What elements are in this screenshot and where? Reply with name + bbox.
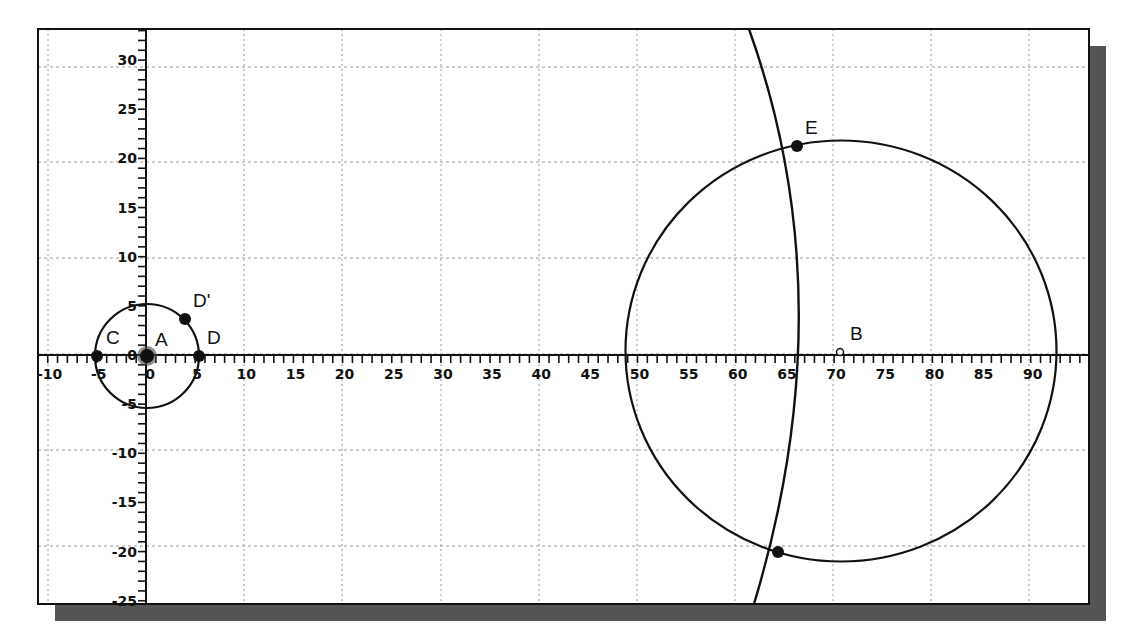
y-tick-label: 0: [127, 347, 137, 363]
x-tick-label: 60: [728, 366, 748, 382]
y-tick-label: -15: [112, 494, 137, 510]
x-tick-label: 25: [384, 366, 403, 382]
point-label: C: [106, 327, 120, 348]
x-tick-label: 65: [777, 366, 796, 382]
point-label: D: [207, 327, 221, 348]
x-tick-label: 80: [925, 366, 945, 382]
point-F[interactable]: [772, 546, 784, 558]
y-tick-label: 20: [118, 150, 138, 166]
x-tick-label: 15: [286, 366, 305, 382]
x-tick-label: 90: [1023, 366, 1043, 382]
y-tick-label: 10: [118, 249, 138, 265]
point-label: D': [193, 290, 210, 311]
point-label: B: [850, 323, 863, 344]
x-tick-label: 40: [531, 366, 551, 382]
x-tick-label: 85: [974, 366, 993, 382]
point-label: E: [805, 117, 818, 138]
point-label: A: [155, 329, 168, 350]
x-tick-label: 10: [237, 366, 257, 382]
y-tick-label: -10: [112, 445, 138, 461]
x-tick-label: 50: [630, 366, 650, 382]
y-tick-label: 30: [118, 52, 138, 68]
y-tick-label: -20: [112, 544, 138, 560]
x-tick-label: 20: [335, 366, 355, 382]
x-tick-label: 0: [145, 366, 155, 382]
geometry-canvas[interactable]: -10-505101520253035404550556065707580859…: [0, 0, 1126, 640]
y-tick-label: -25: [112, 593, 137, 609]
y-tick-label: 15: [118, 200, 137, 216]
x-tick-label: 55: [679, 366, 698, 382]
x-tick-label: 45: [581, 366, 600, 382]
x-tick-label: 70: [826, 366, 846, 382]
x-tick-label: 30: [433, 366, 453, 382]
y-tick-label: 25: [118, 101, 137, 117]
x-tick-label: -10: [37, 366, 63, 382]
x-tick-label: 35: [482, 366, 501, 382]
x-tick-label: 75: [876, 366, 895, 382]
